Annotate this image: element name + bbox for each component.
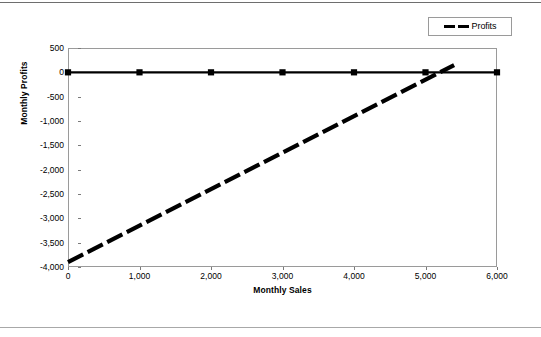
x-tick-mark: [283, 267, 284, 270]
x-tick-label: 2,000: [181, 272, 241, 281]
y-tick-mark: [78, 48, 81, 49]
y-tick-label: -2,500: [18, 190, 64, 199]
profits-chart: 5000-500-1,000-1,500-2,000-2,500-3,000-3…: [0, 0, 541, 337]
y-axis-title: Monthly Profits: [19, 33, 29, 153]
x-tick-label: 3,000: [253, 272, 313, 281]
y-tick-mark: [78, 267, 81, 268]
legend-label-profits: Profits: [472, 22, 497, 31]
x-tick-label: 0: [38, 272, 98, 281]
x-tick-label: 6,000: [467, 272, 527, 281]
x-tick-label: 1,000: [110, 272, 170, 281]
x-tick-mark: [68, 267, 69, 270]
y-tick-label: -3,500: [18, 239, 64, 248]
y-tick-label: -3,000: [18, 214, 64, 223]
x-tick-label: 4,000: [324, 272, 384, 281]
y-tick-mark: [78, 218, 81, 219]
x-tick-mark: [426, 267, 427, 270]
x-tick-mark: [140, 267, 141, 270]
x-tick-mark: [497, 267, 498, 270]
y-tick-label: -4,000: [18, 263, 64, 272]
x-axis-title: Monthly Sales: [68, 285, 497, 295]
y-tick-mark: [78, 170, 81, 171]
y-tick-mark: [78, 145, 81, 146]
plot-area: [68, 48, 497, 267]
y-tick-mark: [78, 243, 81, 244]
y-tick-mark: [78, 194, 81, 195]
x-tick-mark: [211, 267, 212, 270]
y-tick-mark: [78, 97, 81, 98]
y-tick-label: -2,000: [18, 166, 64, 175]
legend-dash-icon: [458, 25, 469, 28]
legend-key-profits: Profits: [444, 22, 497, 31]
legend-dash-icon: [444, 25, 455, 28]
y-tick-mark: [78, 121, 81, 122]
x-tick-mark: [354, 267, 355, 270]
x-tick-label: 5,000: [396, 272, 456, 281]
chart-legend: Profits: [428, 17, 512, 36]
y-tick-mark: [78, 72, 81, 73]
